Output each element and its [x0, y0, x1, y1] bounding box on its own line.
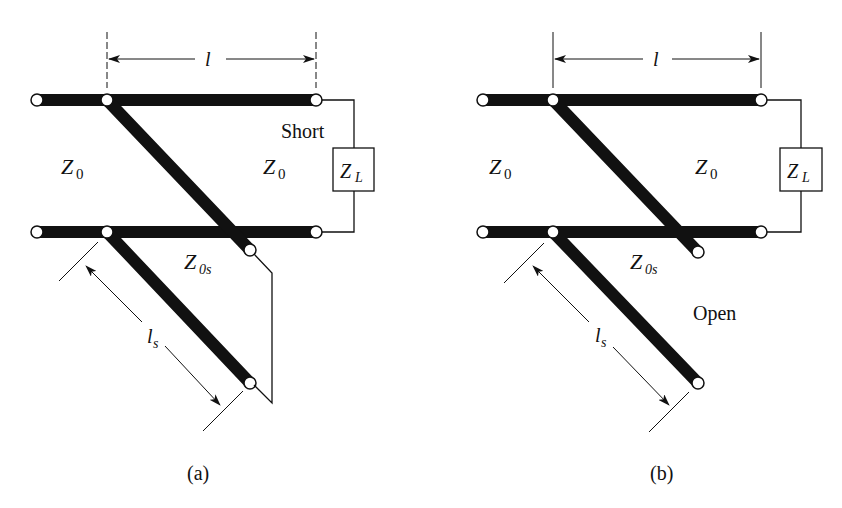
terminal-nodes	[477, 94, 767, 389]
svg-text:0s: 0s	[199, 262, 212, 277]
svg-text:0: 0	[504, 166, 512, 182]
line-left-impedance: Z	[61, 154, 74, 179]
stub-matching-diagram: l Z L Short Z 0 Z 0 Z 0s	[0, 0, 842, 508]
panel-caption: (b)	[650, 462, 673, 485]
length-label: l	[653, 48, 659, 70]
length-label: l	[205, 48, 211, 70]
svg-text:0: 0	[278, 166, 286, 182]
load-wire	[322, 100, 354, 148]
svg-text:L: L	[801, 170, 810, 185]
svg-text:0: 0	[76, 166, 84, 182]
termination-label: Short	[281, 120, 325, 142]
panel-b: l Z L Z 0 Z 0 Z 0s Open l s (b)	[477, 32, 822, 485]
svg-text:Z: Z	[340, 160, 352, 182]
svg-text:0s: 0s	[645, 262, 658, 277]
termination-label: Open	[693, 302, 736, 325]
svg-text:s: s	[601, 335, 607, 350]
panel-caption: (a)	[187, 462, 209, 485]
line-right-impedance: Z	[263, 154, 276, 179]
stub-impedance: Z	[184, 249, 197, 274]
line-right-impedance: Z	[695, 154, 708, 179]
svg-text:s: s	[153, 336, 159, 351]
length-dimension: l	[107, 32, 316, 88]
terminal-nodes	[31, 94, 322, 389]
short-circuit-wire	[254, 254, 272, 403]
load-wire	[767, 100, 801, 148]
length-dimension: l	[553, 32, 761, 88]
svg-text:0: 0	[710, 166, 718, 182]
stub-impedance: Z	[630, 249, 643, 274]
svg-text:L: L	[354, 170, 363, 185]
line-left-impedance: Z	[489, 154, 502, 179]
svg-text:Z: Z	[787, 160, 799, 182]
panel-a: l Z L Short Z 0 Z 0 Z 0s	[0, 0, 374, 485]
